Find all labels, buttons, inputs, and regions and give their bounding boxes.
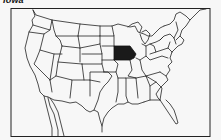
new-england xyxy=(164,9,206,52)
great-lakes xyxy=(128,22,163,46)
east-coast xyxy=(156,52,172,100)
gulf-coast xyxy=(102,102,144,132)
baja-lines xyxy=(44,96,64,136)
us-outline xyxy=(25,10,48,97)
us-map xyxy=(0,0,221,140)
florida xyxy=(144,100,178,124)
state-lines-southeast xyxy=(146,72,166,100)
state-lines-central xyxy=(78,26,112,110)
state-lines-west xyxy=(29,20,90,98)
iowa-highlight xyxy=(114,46,136,60)
